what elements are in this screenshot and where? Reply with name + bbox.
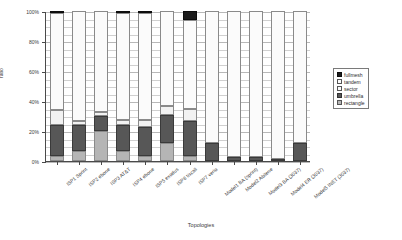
bar-segment-umbrella <box>271 159 285 161</box>
y-tick-mark <box>42 162 46 163</box>
y-tick-label: 20% <box>1 129 39 135</box>
bar-column <box>205 11 219 161</box>
legend-item-sector: sector <box>337 85 365 92</box>
y-tick-mark <box>42 102 46 103</box>
bar-segment-rectangle <box>160 143 174 161</box>
bar-segment-tandem <box>293 11 307 143</box>
x-tick-mark <box>101 162 102 165</box>
bar-segment-tandem <box>227 11 241 157</box>
legend-swatch-sector-icon <box>337 86 342 91</box>
bar-segment-tandem <box>183 20 197 109</box>
bar-segment-umbrella <box>138 127 152 156</box>
bar-segment-rectangle <box>72 151 86 162</box>
bar-segment-umbrella <box>249 157 263 161</box>
bar-segment-tandem <box>72 11 86 121</box>
x-tick-mark <box>190 162 191 165</box>
bar-segment-sector <box>160 106 174 115</box>
x-tick-label: ISP7 verio <box>197 166 219 185</box>
bar-segment-tandem <box>50 13 64 110</box>
legend-label: rectangle <box>344 100 365 106</box>
legend-item-fullmesh: fullmesh <box>337 71 365 78</box>
stacked-bar-chart: ratio 0%20%40%60%80%100% ISP1 SprintISP2… <box>0 0 402 240</box>
legend-label: fullmesh <box>344 72 363 78</box>
x-tick-mark <box>167 162 168 165</box>
bar-segment-rectangle <box>94 131 108 161</box>
y-tick-label: 100% <box>1 9 39 15</box>
y-tick-label: 80% <box>1 39 39 45</box>
y-tick-label: 40% <box>1 99 39 105</box>
bar-segment-fullmesh <box>183 11 197 20</box>
bar-column <box>94 11 108 161</box>
bar-segment-rectangle <box>50 156 64 161</box>
legend-swatch-fullmesh-icon <box>337 72 342 77</box>
legend-item-tandem: tandem <box>337 78 365 85</box>
bar-column <box>293 11 307 161</box>
bar-segment-sector <box>183 109 197 122</box>
bar-segment-tandem <box>94 11 108 112</box>
bar-segment-umbrella <box>160 115 174 143</box>
bar-segment-umbrella <box>116 125 130 151</box>
bar-segment-sector <box>50 110 64 125</box>
bar-segment-umbrella <box>227 157 241 161</box>
bar-column <box>227 11 241 161</box>
x-tick-mark <box>123 162 124 165</box>
bar-segment-umbrella <box>205 143 219 161</box>
bar-segment-umbrella <box>72 125 86 151</box>
bar-column <box>271 11 285 162</box>
bar-column <box>72 11 86 161</box>
x-tick-mark <box>145 162 146 165</box>
y-tick-label: 60% <box>1 69 39 75</box>
x-tick-mark <box>256 162 257 165</box>
bar-column <box>116 11 130 161</box>
bar-segment-tandem <box>138 13 152 120</box>
legend-label: tandem <box>344 79 361 85</box>
x-axis-title: Topologies <box>0 222 402 228</box>
legend-item-umbrella: umbrella <box>337 92 365 99</box>
x-tick-label: ISP1 Sprint <box>65 166 88 187</box>
bar-segment-sector <box>138 120 152 128</box>
plot-area <box>45 12 310 162</box>
x-tick-label: ISP3 AT&T <box>109 166 132 186</box>
bar-segment-rectangle <box>183 156 197 161</box>
bar-segment-umbrella <box>293 143 307 161</box>
x-axis-title-text: Topologies <box>188 222 214 228</box>
bar-segment-rectangle <box>138 156 152 161</box>
x-tick-label: ISP2 ebone <box>87 166 111 187</box>
bar-segment-tandem <box>249 11 263 157</box>
legend-swatch-rectangle-icon <box>337 100 342 105</box>
x-tick-mark <box>278 162 279 165</box>
bar-segment-tandem <box>160 11 174 106</box>
bar-column <box>160 11 174 161</box>
x-tick-label: ISP4 ebone <box>131 166 155 187</box>
legend-label: sector <box>344 86 358 92</box>
bar-segment-tandem <box>205 11 219 143</box>
bar-segment-umbrella <box>50 125 64 156</box>
y-tick-mark <box>42 12 46 13</box>
x-tick-mark <box>79 162 80 165</box>
x-tick-mark <box>212 162 213 165</box>
bar-segment-umbrella <box>94 116 108 131</box>
bar-column <box>183 11 197 161</box>
legend-swatch-tandem-icon <box>337 79 342 84</box>
x-tick-mark <box>234 162 235 165</box>
y-tick-mark <box>42 132 46 133</box>
y-tick-mark <box>42 72 46 73</box>
legend-swatch-umbrella-icon <box>337 93 342 98</box>
bar-segment-umbrella <box>183 121 197 156</box>
bar-column <box>50 11 64 161</box>
x-tick-mark <box>57 162 58 165</box>
bar-segment-tandem <box>271 11 285 160</box>
chart-legend: fullmeshtandemsectorumbrellarectangle <box>333 68 369 109</box>
legend-item-rectangle: rectangle <box>337 99 365 106</box>
y-tick-label: 0% <box>1 159 39 165</box>
legend-label: umbrella <box>344 93 363 99</box>
bar-segment-rectangle <box>116 151 130 161</box>
bar-column <box>138 11 152 162</box>
x-tick-mark <box>300 162 301 165</box>
y-tick-mark <box>42 42 46 43</box>
bar-segment-tandem <box>116 13 130 120</box>
gridline <box>46 162 310 163</box>
x-tick-label: ISP5 exodus <box>154 166 180 189</box>
bar-column <box>249 11 263 161</box>
